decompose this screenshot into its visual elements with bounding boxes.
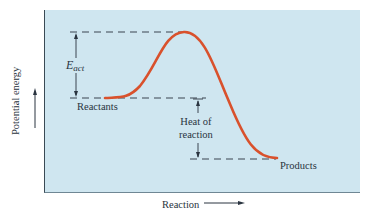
y-axis-arrow [33, 88, 37, 128]
activation-energy-label: Eact [66, 59, 84, 73]
heat-label-line1: Heat of [179, 116, 213, 129]
energy-diagram-graphic [0, 0, 380, 217]
y-axis-label: Potential energy [10, 67, 21, 135]
x-axis-label: Reaction [162, 199, 199, 210]
heat-of-reaction-label: Heat of reaction [179, 116, 213, 141]
heat-label-line2: reaction [179, 129, 213, 142]
x-axis-arrow [204, 201, 245, 205]
products-label: Products [280, 161, 317, 172]
reactants-label: Reactants [77, 102, 118, 113]
